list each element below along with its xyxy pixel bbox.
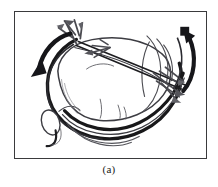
figure-illustration [15, 12, 206, 158]
figure-frame [14, 11, 207, 159]
gallbladder [38, 106, 80, 137]
figure-caption: (a) [0, 163, 218, 175]
figure-root: (a) [0, 0, 218, 187]
liver-body [58, 38, 171, 121]
